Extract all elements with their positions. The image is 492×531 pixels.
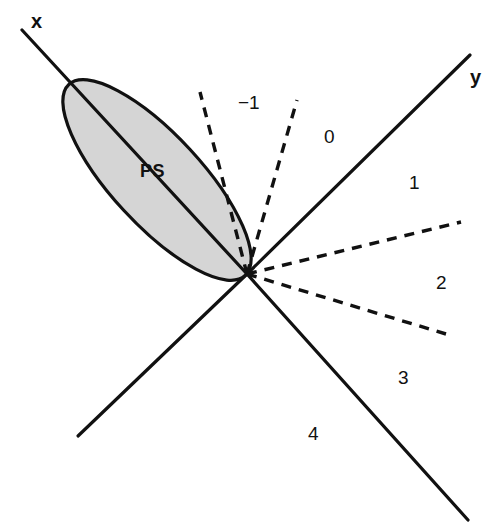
dashed-ray-3-line — [247, 222, 461, 274]
region-label-0: 0 — [324, 126, 335, 148]
x-axis-line — [22, 30, 247, 274]
region-label-1: 1 — [409, 172, 420, 194]
lower-left-axis-line — [78, 274, 247, 436]
x-axis-label: x — [31, 10, 42, 33]
diagram-canvas: x y PS −1 0 1 2 3 4 — [0, 0, 492, 531]
ps-ellipse-label: PS — [140, 161, 165, 182]
y-axis-label: y — [470, 66, 481, 89]
y-axis-line — [247, 55, 470, 274]
dashed-ray-4-line — [247, 274, 446, 334]
region-label-minus-1: −1 — [238, 92, 260, 114]
lower-right-axis-line — [247, 274, 468, 520]
diagram-vector-layer — [0, 0, 492, 531]
region-label-2: 2 — [436, 272, 447, 294]
region-label-3: 3 — [398, 367, 409, 389]
region-label-4: 4 — [308, 423, 319, 445]
